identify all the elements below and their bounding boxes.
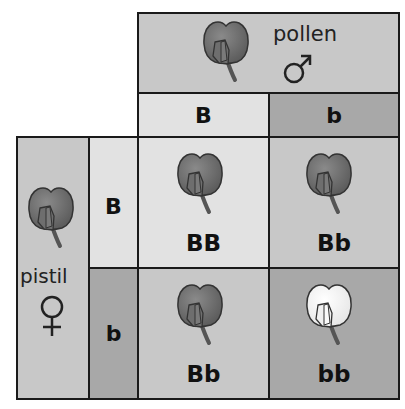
pollen-label: pollen — [273, 22, 337, 46]
male-symbol-icon — [282, 52, 314, 86]
pistil-header: pistil — [16, 136, 90, 400]
white-flower-icon — [304, 283, 354, 348]
genotype-label: Bb — [139, 361, 268, 387]
pollen-header: pollen — [137, 12, 400, 94]
pollen-allele-b: b — [268, 92, 400, 139]
pistil-allele-B: B — [88, 136, 139, 269]
pistil-allele-b: b — [88, 267, 139, 400]
female-symbol-icon — [38, 294, 66, 338]
genotype-label: bb — [270, 361, 398, 387]
purple-flower-icon — [304, 152, 354, 217]
purple-flower-icon — [26, 186, 76, 251]
pollen-allele-B: B — [137, 92, 270, 139]
offspring-bb: bb — [268, 267, 400, 400]
purple-flower-icon — [175, 283, 225, 348]
genotype-label: BB — [139, 230, 268, 256]
offspring-Bb: Bb — [137, 267, 270, 400]
purple-flower-icon — [175, 152, 225, 217]
purple-flower-icon — [201, 20, 251, 85]
genotype-label: Bb — [270, 230, 398, 256]
offspring-Bb: Bb — [268, 136, 400, 269]
pistil-label: pistil — [20, 264, 68, 288]
offspring-BB: BB — [137, 136, 270, 269]
